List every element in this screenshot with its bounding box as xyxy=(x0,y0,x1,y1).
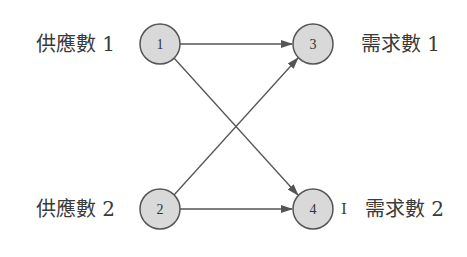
supply-label-2: 供應數 2 xyxy=(36,199,115,219)
svg-text:4: 4 xyxy=(310,202,317,217)
svg-text:3: 3 xyxy=(310,37,317,52)
node-3: 3 xyxy=(293,24,333,64)
supply-label-1: 供應數 1 xyxy=(36,34,115,54)
stray-mark: I xyxy=(341,202,347,217)
node-4: 4 xyxy=(293,189,333,229)
node-1: 1 xyxy=(140,24,180,64)
demand-label-1: 需求數 1 xyxy=(361,34,440,54)
svg-text:1: 1 xyxy=(157,37,164,52)
svg-text:2: 2 xyxy=(157,202,164,217)
node-2: 2 xyxy=(140,189,180,229)
demand-label-2: 需求數 2 xyxy=(365,199,444,219)
